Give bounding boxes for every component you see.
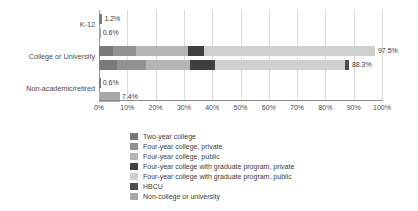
bar-value-label: 88.3% — [352, 61, 372, 69]
gridline — [382, 10, 383, 100]
legend-item[interactable]: Non-college or university — [130, 191, 294, 201]
x-tick-label: 30% — [169, 103, 199, 113]
category-label: Non-academic/retired — [0, 85, 95, 93]
bar-segment — [99, 14, 102, 24]
bar-segment — [190, 60, 215, 70]
x-tick-label: 70% — [282, 103, 312, 113]
bar-segment — [99, 28, 101, 38]
bar-segment — [188, 46, 204, 56]
legend-swatch-icon — [130, 163, 138, 170]
bar-segment — [215, 60, 345, 70]
legend-swatch-icon — [130, 183, 138, 190]
legend-item[interactable]: Four-year college, public — [130, 151, 294, 161]
legend-label: Four-year college, public — [143, 152, 220, 161]
legend-swatch-icon — [130, 193, 138, 200]
bar-value-label: 1.2% — [104, 15, 120, 23]
legend-swatch-icon — [130, 133, 138, 140]
legend-label: Four-year college, private — [143, 142, 222, 151]
legend-swatch-icon — [130, 143, 138, 150]
stacked-bar — [99, 28, 101, 38]
bar-segment — [117, 60, 145, 70]
x-tick-label: 90% — [339, 103, 369, 113]
plot-area — [99, 10, 382, 100]
stacked-bar — [99, 60, 349, 70]
x-tick-label: 0% — [84, 103, 114, 113]
legend-label: Four-year college with graduate program,… — [143, 172, 292, 181]
x-tick-label: 20% — [141, 103, 171, 113]
bar-segment — [99, 78, 101, 88]
x-tick-label: 100% — [367, 103, 397, 113]
x-tick-label: 40% — [197, 103, 227, 113]
legend-label: Non-college or university — [143, 192, 220, 201]
legend-item[interactable]: Four-year college, private — [130, 141, 294, 151]
x-tick-label: 50% — [226, 103, 256, 113]
bar-value-label: 0.6% — [103, 29, 119, 37]
legend-label: Four-year college with graduate program,… — [143, 162, 294, 171]
legend-swatch-icon — [130, 153, 138, 160]
bar-segment — [99, 46, 113, 56]
stacked-bar-chart: K-12College or UniversityNon-academic/re… — [0, 0, 418, 211]
x-axis-line — [99, 100, 383, 101]
stacked-bar — [99, 14, 102, 24]
legend-item[interactable]: Four-year college with graduate program,… — [130, 171, 294, 181]
category-label: K-12 — [0, 21, 95, 29]
bar-value-label: 7.4% — [122, 93, 138, 101]
legend-item[interactable]: HBCU — [130, 181, 294, 191]
legend-swatch-icon — [130, 173, 138, 180]
x-axis-tick-labels: 0%10%20%30%40%50%60%70%80%90%100% — [0, 103, 418, 115]
stacked-bar — [99, 78, 101, 88]
bar-segment — [136, 46, 188, 56]
x-tick-label: 80% — [310, 103, 340, 113]
bar-value-label: 97.5% — [378, 47, 398, 55]
bar-value-label: 0.6% — [103, 79, 119, 87]
legend-item[interactable]: Four-year college with graduate program,… — [130, 161, 294, 171]
category-label: College or University — [0, 53, 95, 61]
chart-legend: Two-year collegeFour-year college, priva… — [130, 131, 294, 201]
x-tick-label: 10% — [112, 103, 142, 113]
legend-label: HBCU — [143, 182, 163, 191]
bar-segment — [99, 60, 117, 70]
bar-segment — [146, 60, 190, 70]
bar-segment — [345, 60, 349, 70]
legend-label: Two-year college — [143, 132, 196, 141]
bar-segment — [113, 46, 136, 56]
x-tick-label: 60% — [254, 103, 284, 113]
stacked-bar — [99, 46, 375, 56]
legend-item[interactable]: Two-year college — [130, 131, 294, 141]
category-axis-labels: K-12College or UniversityNon-academic/re… — [0, 10, 95, 100]
bar-segment — [204, 46, 375, 56]
